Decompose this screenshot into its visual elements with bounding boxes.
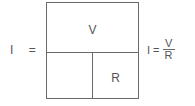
left-expression: I =: [10, 43, 42, 57]
resistance-cell-label: R: [93, 71, 138, 85]
denominator: R: [165, 50, 173, 61]
formula-lhs: I =: [147, 44, 160, 56]
voltage-cell-label: V: [47, 23, 138, 37]
fraction: V R: [163, 38, 175, 61]
numerator: V: [165, 38, 172, 49]
formula: I = V R: [147, 38, 175, 61]
ohms-law-grid: V R: [46, 2, 139, 99]
